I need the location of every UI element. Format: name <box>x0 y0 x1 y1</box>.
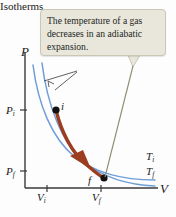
x-tick-label-v-final: Vf <box>92 192 101 205</box>
x-axis-label: V <box>160 182 168 195</box>
isotherm-label-ti: Ti <box>146 151 154 164</box>
pv-diagram-figure: The temperature of a gas decreases in an… <box>0 0 176 217</box>
isotherm-leader-lines <box>44 71 77 90</box>
state-point-f-label: f <box>88 175 91 186</box>
state-point-i-marker <box>52 106 59 113</box>
x-tick-label-v-initial: Vi <box>37 192 46 205</box>
callout-text: The temperature of a gas decreases in an… <box>47 15 142 52</box>
callout-leader-line <box>105 55 140 177</box>
state-point-f-marker <box>100 174 107 181</box>
y-tick-label-p-initial: Pi <box>6 105 15 118</box>
state-point-i-label: i <box>61 101 64 112</box>
y-tick-label-p-final: Pf <box>6 166 15 179</box>
y-axis-label: P <box>21 45 29 58</box>
adiabat-curve <box>56 110 104 178</box>
callout-box: The temperature of a gas decreases in an… <box>40 9 166 56</box>
isotherm-label-tf: Tf <box>146 166 154 179</box>
